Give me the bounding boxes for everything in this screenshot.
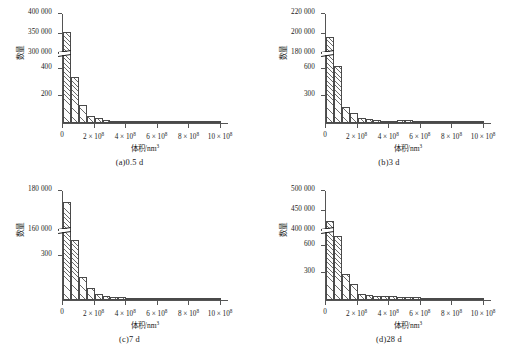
y-tick-c-low-0: 300 [58, 255, 62, 256]
y-tick-b-up-1: 200 000 [321, 33, 325, 34]
histogram-bar [437, 121, 445, 123]
histogram-bar [358, 294, 366, 300]
x-tick-d-0: 0 [325, 301, 326, 305]
x-tick-label-c-2: 4 × 108 [115, 309, 136, 319]
histogram-bar [405, 120, 413, 123]
x-tick-label-c-5: 10 × 108 [208, 309, 233, 319]
histogram-bar [389, 296, 397, 300]
histogram-bar [358, 118, 366, 123]
x-tick-label-b-1: 2 × 108 [346, 132, 367, 142]
histogram-bar [134, 298, 142, 300]
histogram-bar [452, 298, 460, 300]
y-tick-label-c-low-0: 300 [41, 251, 52, 258]
histogram-bar [389, 121, 397, 123]
histogram-bar [205, 121, 213, 123]
x-tick-label-b-3: 6 × 108 [409, 132, 430, 142]
x-tick-b-2: 4 × 108 [388, 124, 389, 128]
y-axis-break-a [58, 50, 71, 57]
histogram-bar [150, 298, 158, 300]
x-tick-a-4: 8 × 108 [188, 124, 189, 128]
x-tick-label-c-1: 2 × 108 [83, 309, 104, 319]
y-tick-d-up-1: 450 000 [321, 210, 325, 211]
histogram-bar [452, 121, 460, 123]
x-tick-a-1: 2 × 108 [94, 124, 95, 128]
x-tick-c-3: 6 × 108 [157, 301, 158, 305]
histogram-bar [437, 298, 445, 300]
x-tick-c-4: 8 × 108 [188, 301, 189, 305]
y-tick-label-d-low-0: 300 [304, 269, 315, 276]
x-tick-label-b-5: 10 × 108 [471, 132, 496, 142]
x-tick-a-3: 6 × 108 [157, 124, 158, 128]
x-tick-label-d-4: 8 × 108 [441, 309, 462, 319]
y-tick-b-up-2: 220 000 [321, 13, 325, 14]
histogram-bar [405, 297, 413, 300]
y-tick-label-d-up-0: 400 000 [291, 226, 315, 233]
x-axis-line-a [62, 123, 228, 124]
histogram-bar [381, 121, 389, 123]
histogram-bar [150, 121, 158, 123]
x-axis-line-b [325, 123, 491, 124]
histogram-bar [166, 121, 174, 123]
x-tick-d-1: 2 × 108 [357, 301, 358, 305]
histogram-bar [213, 298, 221, 300]
histogram-bar [189, 121, 197, 123]
x-tick-label-a-1: 2 × 108 [83, 132, 104, 142]
bars-c [63, 191, 228, 300]
histogram-bar [182, 121, 190, 123]
histogram-bar [197, 121, 205, 123]
bars-d [326, 191, 491, 300]
histogram-bar [71, 240, 79, 300]
histogram-bar [126, 298, 134, 300]
histogram-bar [189, 298, 197, 300]
histogram-bar [350, 284, 358, 300]
histogram-bar [197, 298, 205, 300]
histogram-bar [79, 277, 87, 300]
x-tick-label-a-4: 8 × 108 [178, 132, 199, 142]
x-tick-label-a-2: 4 × 108 [115, 132, 136, 142]
y-tick-label-a-up-2: 400 000 [28, 9, 52, 16]
histogram-bar [445, 298, 453, 300]
bars-b [326, 14, 491, 123]
y-tick-label-b-low-0: 300 [304, 92, 315, 99]
y-tick-label-d-up-2: 500 000 [291, 186, 315, 193]
panel-caption-b: (b)3 d [259, 158, 519, 167]
x-tick-a-2: 4 × 108 [125, 124, 126, 128]
histogram-bar [158, 298, 166, 300]
x-tick-b-1: 2 × 108 [357, 124, 358, 128]
x-tick-b-5: 10 × 108 [483, 124, 484, 128]
y-tick-label-b-low-1: 600 [304, 64, 315, 71]
chart-panel-b: 数量 300600180 000200 000220 000 02 × 1084… [259, 0, 519, 177]
chart-panel-d: 数量 300600400 000450 000500 000 02 × 1084… [259, 177, 519, 355]
histogram-bar [460, 298, 468, 300]
x-tick-b-3: 6 × 108 [420, 124, 421, 128]
histogram-bar [366, 119, 374, 123]
x-axis-line-c [62, 300, 228, 301]
y-tick-label-c-up-1: 180 000 [28, 186, 52, 193]
histogram-bar [429, 121, 437, 123]
y-tick-d-up-2: 500 000 [321, 190, 325, 191]
x-tick-b-0: 0 [325, 124, 326, 128]
histogram-bar [205, 298, 213, 300]
histogram-bar [103, 120, 111, 123]
x-tick-c-1: 2 × 108 [94, 301, 95, 305]
histogram-bar [110, 121, 118, 123]
panel-caption-d: (d)28 d [259, 335, 519, 344]
histogram-bar [373, 120, 381, 123]
x-tick-d-3: 6 × 108 [420, 301, 421, 305]
y-tick-d-low-1: 600 [321, 245, 325, 246]
bars-a [63, 14, 228, 123]
y-tick-label-a-up-0: 300 000 [28, 49, 52, 56]
y-axis-title-c: 数量 [14, 223, 25, 237]
x-axis-title-b: 体积/nm3 [325, 142, 491, 153]
x-tick-a-0: 0 [62, 124, 63, 128]
y-axis-break-c [58, 227, 71, 234]
histogram-bar [429, 298, 437, 300]
histogram-bar [142, 121, 150, 123]
x-tick-c-2: 4 × 108 [125, 301, 126, 305]
plot-area-c: 300160 000180 000 02 × 1084 × 1086 × 108… [62, 191, 228, 301]
x-tick-b-4: 8 × 108 [451, 124, 452, 128]
histogram-bar [166, 298, 174, 300]
histogram-bar [103, 296, 111, 300]
y-tick-label-b-up-2: 220 000 [291, 9, 315, 16]
plot-area-a: 200400300 000350 000400 000 02 × 1084 × … [62, 14, 228, 124]
